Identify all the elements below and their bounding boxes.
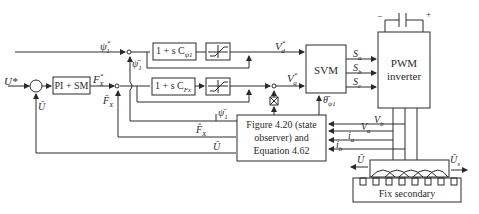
vq-ref-label: V*q xyxy=(287,72,297,87)
vd-ref-label: V*d xyxy=(275,40,285,55)
psi-ref-label: ψ*1 xyxy=(100,40,110,55)
dc-minus-label: − xyxy=(377,12,382,21)
vb-label: Vb xyxy=(374,115,384,128)
force-controller-label: 1 + s CFx xyxy=(155,81,191,94)
fx-est-label: F̂X xyxy=(196,125,206,138)
u-fb-label: Ū xyxy=(38,102,45,112)
sum-junction-u xyxy=(30,80,42,92)
svm-label: SVM xyxy=(306,64,346,77)
state-observer-label: Figure 4.20 (state observer) and Equatio… xyxy=(237,118,326,157)
motor-u-label: Ū xyxy=(357,155,364,165)
pwm-inverter-label: PWM inverter xyxy=(378,57,430,82)
fx-fb-label: F̄X xyxy=(103,96,113,109)
sc-label: Sc xyxy=(353,77,361,90)
theta-label: θ̄ψ1 xyxy=(323,95,336,108)
sa-label: Sa xyxy=(353,49,362,62)
block-diagram-wires xyxy=(0,0,479,214)
u-est-label: Ū xyxy=(213,142,220,152)
ib-label: ib xyxy=(336,140,342,153)
fix-secondary-label: Fix secondary xyxy=(353,188,461,200)
pi-sm-label: PI + SM xyxy=(53,80,90,92)
va-label: Va xyxy=(361,122,371,135)
motor-primary-box xyxy=(370,160,449,177)
sb-label: Sb xyxy=(353,63,362,76)
u-ref-label: U* xyxy=(4,76,17,87)
dc-plus-label: + xyxy=(426,10,431,19)
fx-ref-label: F*X xyxy=(93,73,104,88)
psi-fb-label: ψ̄1 xyxy=(132,59,142,72)
motor-us-label: Ūs xyxy=(450,155,460,168)
flux-controller-label: 1 + s Cψ1 xyxy=(156,46,193,59)
ia-label: ia xyxy=(348,131,354,144)
psi-est-label: ψ̄1 xyxy=(218,108,228,121)
